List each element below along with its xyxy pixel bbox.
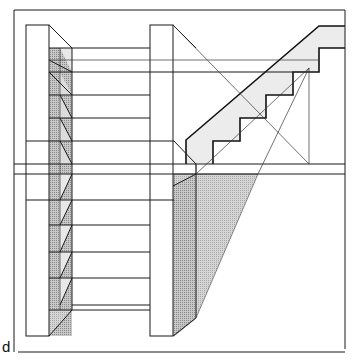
shadow-projection (174, 174, 258, 336)
staircase-section (186, 26, 345, 164)
staircase-projection-drawing (0, 0, 354, 364)
figure-label: d (2, 338, 10, 355)
